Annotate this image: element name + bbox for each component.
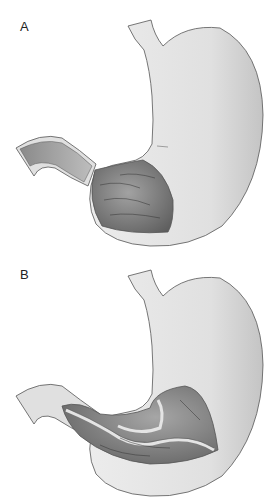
stomach-illustration-b — [0, 250, 277, 498]
stomach-illustration-a — [0, 0, 277, 250]
antrum-lumen — [62, 386, 218, 464]
figure-caption — [6, 491, 271, 495]
duodenum-lumen — [20, 141, 92, 182]
